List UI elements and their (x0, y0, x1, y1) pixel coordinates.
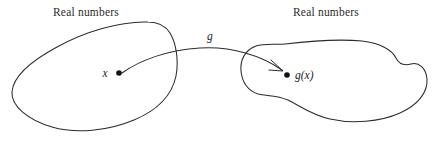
function-label: g (207, 30, 213, 43)
domain-set-label: Real numbers (53, 6, 119, 18)
domain-point-label: x (101, 67, 108, 79)
mapping-arrow-curve (122, 48, 282, 73)
codomain-point-label: g(x) (295, 69, 314, 82)
codomain-point-dot (284, 72, 290, 78)
codomain-set-blob (241, 40, 427, 121)
domain-set-blob (12, 22, 177, 131)
domain-point-dot (116, 70, 122, 76)
function-mapping-diagram: Real numbers Real numbers g x g(x) (0, 0, 433, 144)
codomain-set-label: Real numbers (293, 6, 359, 18)
